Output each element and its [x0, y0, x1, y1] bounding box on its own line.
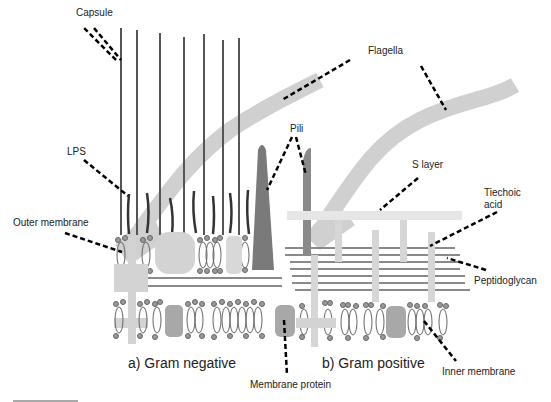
outer-membrane-protein: [226, 236, 242, 274]
label-membrane-protein: Membrane protein: [250, 379, 331, 391]
peptidoglycan-gram-negative: [148, 278, 282, 286]
s-layer: [287, 211, 462, 220]
label-lps: LPS: [67, 146, 86, 158]
caption-gram-negative: a) Gram negative: [128, 355, 236, 371]
label-teichoic-acid-1: Tiechoic: [484, 187, 521, 199]
pili-gram-negative: [252, 145, 274, 270]
label-pili: Pili: [290, 123, 303, 135]
membrane-protein-3: [386, 306, 406, 338]
label-capsule: Capsule: [76, 7, 113, 19]
label-flagella: Flagella: [368, 45, 403, 57]
cell-envelope-diagram: [0, 0, 551, 402]
label-teichoic-acid-2: acid: [484, 199, 502, 211]
label-inner-membrane: Inner membrane: [442, 366, 515, 378]
caption-gram-positive: b) Gram positive: [322, 355, 425, 371]
transmembrane-protein-gp: [296, 318, 336, 328]
membrane-protein-1: [165, 305, 183, 337]
label-peptidoglycan: Peptidoglycan: [474, 275, 537, 287]
label-s-layer: S layer: [412, 159, 443, 171]
porin-protein: [155, 232, 195, 274]
label-outer-membrane: Outer membrane: [13, 217, 89, 229]
